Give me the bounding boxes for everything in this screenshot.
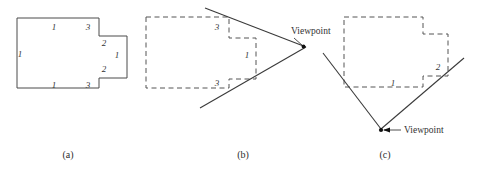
edge-label-a-6: 1: [52, 80, 57, 90]
view-ray-c-left: [323, 53, 381, 129]
edge-label-a-3: 1: [115, 50, 120, 60]
edge-label-a-4: 2: [102, 64, 107, 74]
caption-a: (a): [62, 149, 73, 161]
edge-label-a-7: 3: [85, 80, 91, 90]
viewpoint-b-leader: [294, 38, 303, 46]
edge-label-b-2: 3: [214, 78, 220, 88]
viewpoint-b-label: Viewpoint: [291, 26, 331, 36]
viewpoint-c-arrowhead: [383, 128, 390, 133]
viewpoint-c-label: Viewpoint: [404, 125, 444, 135]
edge-label-a-5: 1: [18, 49, 23, 59]
edge-label-a-1: 3: [85, 22, 91, 32]
edge-label-b-1: 1: [245, 50, 250, 60]
edge-label-a-0: 1: [52, 22, 57, 32]
viewpoint-c-dot: [379, 128, 383, 132]
viewpoint-b-dot: [302, 45, 306, 49]
panel-a-graphic: 1 3 2 1 2 1 1 3 3 1 3 1 2 Viewpoint View…: [0, 0, 482, 171]
caption-c: (c): [379, 149, 390, 161]
polygon-b-outline: [146, 17, 256, 88]
view-ray-c-right: [381, 58, 464, 129]
edge-label-b-0: 3: [214, 22, 220, 32]
polygon-c-outline: [344, 17, 448, 87]
edge-label-c-0: 1: [391, 78, 396, 88]
edge-label-c-1: 2: [436, 62, 441, 72]
edge-label-a-2: 2: [102, 38, 107, 48]
caption-b: (b): [237, 149, 249, 161]
figure-container: 1 3 2 1 2 1 1 3 3 1 3 1 2 Viewpoint View…: [0, 0, 482, 171]
polygon-a-outline: [17, 18, 127, 88]
